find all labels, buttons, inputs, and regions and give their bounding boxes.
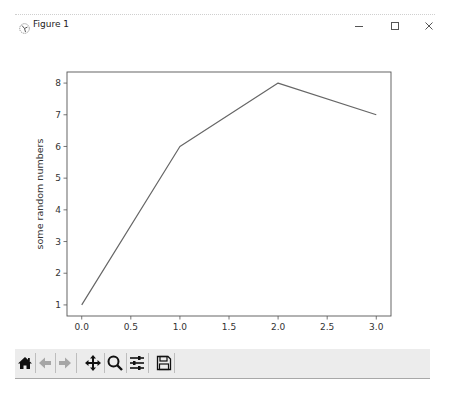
y-tick-label: 4 <box>55 205 61 215</box>
y-tick-label: 3 <box>55 237 61 247</box>
figure-window: Figure 1 0.00.51.01.52.02.53.012345678so… <box>0 0 449 394</box>
back-button[interactable] <box>36 352 54 374</box>
save-button[interactable] <box>155 352 173 374</box>
arrow-left-icon <box>37 355 53 371</box>
magnifier-icon <box>106 354 124 372</box>
y-tick-label: 8 <box>55 78 61 88</box>
y-tick-label: 6 <box>55 142 61 152</box>
y-tick-label: 2 <box>55 268 61 278</box>
zoom-button[interactable] <box>105 352 125 374</box>
y-tick-label: 7 <box>55 110 61 120</box>
configure-subplots-button[interactable] <box>127 352 147 374</box>
home-button[interactable] <box>16 352 34 374</box>
floppy-disk-icon <box>156 355 172 371</box>
home-icon <box>17 355 33 371</box>
x-tick-label: 3.0 <box>369 322 384 332</box>
y-axis-label: some random numbers <box>34 139 45 250</box>
x-tick-label: 2.0 <box>271 322 286 332</box>
y-tick-label: 5 <box>55 173 61 183</box>
forward-button[interactable] <box>56 352 74 374</box>
sliders-icon <box>128 354 146 372</box>
x-tick-label: 0.5 <box>124 322 138 332</box>
line-chart: 0.00.51.01.52.02.53.012345678some random… <box>0 0 449 345</box>
x-tick-label: 2.5 <box>320 322 334 332</box>
navigation-toolbar <box>15 349 430 379</box>
toolbar-separator <box>174 353 175 373</box>
x-tick-label: 1.0 <box>173 322 188 332</box>
pan-button[interactable] <box>83 352 103 374</box>
axes-frame <box>67 72 391 316</box>
x-tick-label: 0.0 <box>75 322 90 332</box>
toolbar-separator <box>148 353 149 373</box>
arrow-right-icon <box>57 355 73 371</box>
x-tick-label: 1.5 <box>222 322 236 332</box>
move-arrows-icon <box>84 354 102 372</box>
toolbar-separator <box>76 353 77 373</box>
y-tick-label: 1 <box>55 300 61 310</box>
